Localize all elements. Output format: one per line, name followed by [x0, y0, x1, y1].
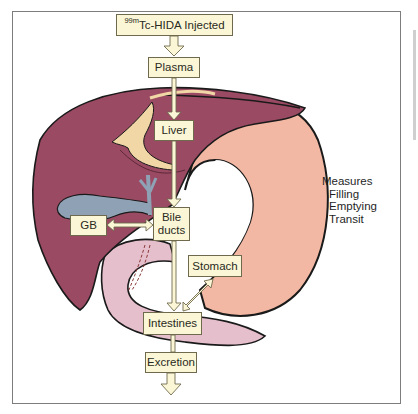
- measure-item-filling: Filling: [322, 188, 377, 201]
- node-tc-hida-injected: 99mTc-HIDA Injected: [116, 14, 233, 36]
- node-label: Liver: [162, 124, 187, 137]
- node-plasma: Plasma: [148, 57, 200, 78]
- node-gb: GB: [70, 215, 107, 236]
- node-label: Plasma: [155, 61, 193, 74]
- node-label: GB: [80, 219, 97, 232]
- node-label-line2: ducts: [158, 224, 186, 237]
- node-excretion: Excretion: [145, 352, 197, 373]
- node-label: Tc-HIDA Injected: [139, 19, 225, 31]
- node-stomach: Stomach: [188, 255, 242, 277]
- node-label-line1: Bile: [162, 211, 181, 224]
- node-liver: Liver: [154, 120, 194, 141]
- node-label: Stomach: [192, 260, 237, 273]
- measures-annotation: Measures Filling Emptying Transit: [322, 175, 377, 225]
- arrow-excretion-out: [161, 373, 181, 395]
- measure-item-emptying: Emptying: [322, 200, 377, 213]
- node-label: Intestines: [148, 317, 197, 330]
- arrow-intestines-to-excretion: [171, 335, 175, 352]
- node-bile-ducts: Bile ducts: [153, 207, 190, 241]
- measure-item-transit: Transit: [322, 213, 377, 226]
- node-label: Excretion: [147, 356, 195, 369]
- arrow-injected-to-plasma: [164, 36, 184, 56]
- measures-heading: Measures: [322, 175, 373, 187]
- node-intestines: Intestines: [143, 312, 202, 335]
- isotope-superscript: 99m: [124, 16, 139, 25]
